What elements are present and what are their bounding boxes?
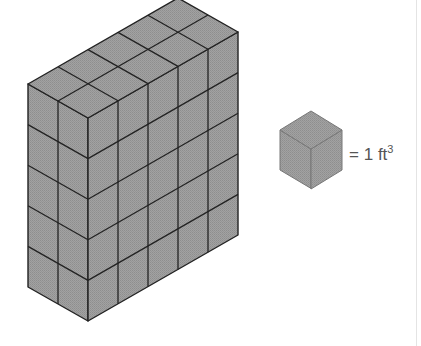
unit-cube-icon — [280, 111, 342, 189]
page-edge-line — [416, 0, 417, 346]
unit-exponent: 3 — [387, 143, 393, 155]
unit-value: 1 — [364, 145, 373, 164]
unit-cube-label: = 1 ft3 — [349, 143, 393, 165]
unit-name: ft — [378, 145, 387, 164]
equals-sign: = — [349, 145, 359, 164]
cube-prism-diagram — [0, 0, 421, 346]
rectangular-prism — [28, 0, 238, 321]
